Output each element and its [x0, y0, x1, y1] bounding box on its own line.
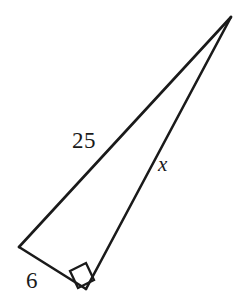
short-leg-label: 6	[26, 269, 38, 292]
hypotenuse-label: 25	[72, 129, 96, 152]
figure-root: 25 x 6	[0, 0, 237, 302]
long-leg-label: x	[158, 154, 167, 175]
triangle-diagram-svg	[0, 0, 237, 302]
